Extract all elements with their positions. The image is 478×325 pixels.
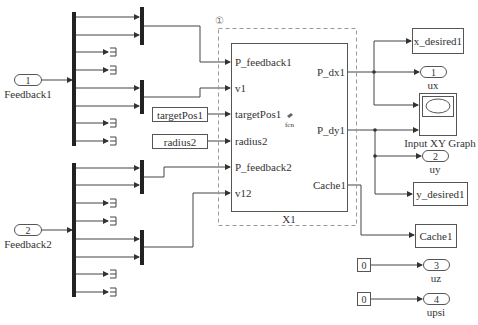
subsystem-name: X1: [282, 213, 295, 225]
inport-label: Feedback2: [4, 238, 52, 250]
inport-feedback1[interactable]: 1: [14, 74, 42, 86]
priority-badge: ①: [215, 15, 224, 27]
mux-1: [140, 7, 144, 45]
inport-feedback2[interactable]: 2: [14, 224, 42, 236]
mux-2: [140, 80, 144, 114]
outport-number: 1: [431, 67, 436, 78]
goto-block-y-desired1[interactable]: y_desired1: [413, 182, 468, 206]
outport-number: 4: [434, 294, 439, 305]
inport-number: 2: [26, 225, 31, 236]
demux-1: [72, 12, 76, 146]
goto-block-x-desired1[interactable]: x_desired1: [412, 28, 464, 54]
goto-block-cache1[interactable]: Cache1: [415, 224, 457, 248]
inport-number: 1: [26, 75, 31, 86]
outport-label: uy: [430, 163, 441, 175]
demux-2: [72, 163, 76, 297]
constant-block[interactable]: 0: [357, 292, 371, 306]
mux-4: [140, 230, 144, 265]
outport-upsi[interactable]: 4: [423, 293, 450, 305]
outport-label: ux: [428, 79, 439, 91]
scope-label: Input XY Graph: [404, 137, 476, 149]
xy-graph-scope[interactable]: [419, 93, 457, 136]
mux-3: [140, 160, 144, 194]
from-block-radius2[interactable]: radius2: [152, 134, 208, 149]
outport-label: uz: [431, 272, 441, 284]
outport-label: upsi: [427, 306, 445, 318]
constant-block[interactable]: 0: [357, 258, 371, 272]
outport-number: 3: [434, 260, 439, 271]
from-block-targetpos1[interactable]: targetPos1: [152, 107, 208, 122]
outport-uz[interactable]: 3: [423, 259, 450, 271]
outport-number: 2: [433, 151, 438, 162]
inport-label: Feedback1: [4, 88, 52, 100]
subsystem-block-x1[interactable]: [231, 43, 348, 212]
outport-ux[interactable]: 1: [420, 66, 447, 78]
outport-uy[interactable]: 2: [422, 150, 449, 162]
